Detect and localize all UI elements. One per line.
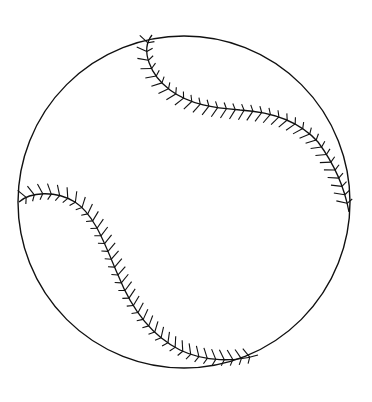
baseball-drawing — [0, 0, 372, 402]
lower-seam — [19, 194, 258, 360]
upper-seam — [147, 35, 349, 212]
ball-outline — [18, 36, 350, 368]
